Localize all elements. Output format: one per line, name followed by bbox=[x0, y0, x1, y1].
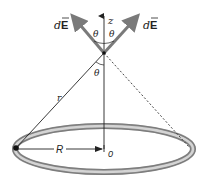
theta-left-top: θ bbox=[93, 29, 99, 39]
dE-label-right: dE bbox=[143, 19, 157, 32]
dE-arrow-left bbox=[76, 20, 104, 53]
theta-arc-lower bbox=[96, 62, 104, 65]
theta-right-top: θ bbox=[109, 29, 115, 39]
field-point-dot bbox=[102, 51, 106, 55]
origin-label: 0 bbox=[108, 149, 113, 159]
ring-field-diagram: dE dE z θ θ θ r R 0 bbox=[0, 0, 209, 184]
diagram-svg: dE dE z θ θ θ r R 0 bbox=[0, 0, 209, 184]
R-label: R bbox=[56, 144, 63, 155]
charge-element-dot bbox=[13, 145, 19, 151]
r-label: r bbox=[57, 93, 62, 103]
z-label: z bbox=[107, 15, 114, 26]
theta-lower: θ bbox=[94, 68, 100, 78]
dE-label-left: dE bbox=[54, 19, 68, 32]
